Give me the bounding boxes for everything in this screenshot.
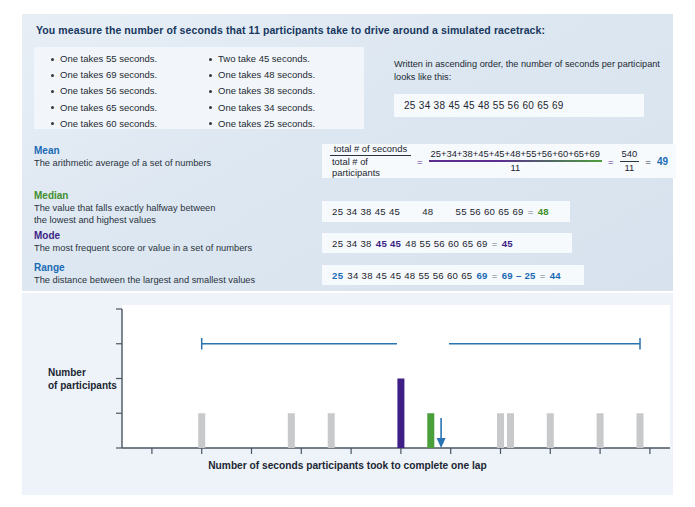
- list-item: Two take 45 seconds.: [206, 51, 315, 67]
- mean-frac-denominator: total # of participants: [330, 157, 411, 178]
- median-left-values: 25 34 38 45 45: [332, 206, 400, 217]
- definition-row-mode: Mode The most frequent score or value in…: [34, 229, 664, 254]
- range-high-value: 69: [476, 270, 487, 281]
- mode-values-post: 48 55 56 60 65 69: [405, 238, 487, 249]
- mean-sum-numerator: 25+34+38+45+45+48+55+56+60+65+69: [429, 149, 602, 160]
- median-right-values: 55 56 60 65 69: [456, 206, 524, 217]
- bar-60: [547, 413, 554, 448]
- bar-56: [507, 413, 514, 448]
- mean-arrow-icon: [437, 418, 446, 448]
- mean-count-denominator: 11: [508, 163, 522, 174]
- definition-row-median: Median The value that falls exactly half…: [34, 189, 664, 227]
- range-annotation: [202, 337, 640, 350]
- bar-45: [397, 379, 404, 449]
- explanation-panel: You measure the number of seconds that 1…: [22, 14, 673, 291]
- y-axis-ticks: [116, 309, 122, 448]
- equals-sign-3: =: [645, 156, 651, 167]
- list-item: One takes 34 seconds.: [206, 100, 315, 116]
- bar-65: [597, 413, 604, 448]
- range-low-value: 25: [332, 270, 343, 281]
- list-item: One takes 48 seconds.: [206, 67, 315, 83]
- definition-row-range: Range The distance between the largest a…: [34, 261, 664, 286]
- page-root: You measure the number of seconds that 1…: [0, 0, 695, 507]
- bullet-list-box: One takes 55 seconds. One takes 69 secon…: [34, 47, 364, 129]
- prompt-text: You measure the number of seconds that 1…: [36, 24, 656, 36]
- range-middle-values: 34 38 45 45 48 55 56 60 65: [347, 270, 472, 281]
- list-item: One takes 60 seconds.: [48, 116, 157, 132]
- definition-row-mean: Mean The arithmetic average of a set of …: [34, 144, 664, 169]
- mean-answer: 49: [657, 156, 668, 167]
- mean-fraction-definition: total # of seconds total # of participan…: [330, 144, 411, 179]
- bar-48: [427, 413, 434, 448]
- mean-fraction-reduced: 540 11: [620, 149, 640, 173]
- range-answer: 44: [550, 270, 561, 281]
- equals-sign-2: =: [540, 270, 546, 281]
- median-calculation-box: 25 34 38 45 45 48 55 56 60 65 69 = 48: [322, 201, 570, 222]
- mode-highlighted-values: 45 45: [376, 238, 402, 249]
- mode-answer: 45: [502, 238, 513, 249]
- median-center-value: 48: [422, 206, 433, 217]
- ascending-order-note: Written in ascending order, the number o…: [394, 58, 674, 83]
- mean-total-denominator: 11: [623, 163, 637, 174]
- mean-total-numerator: 540: [620, 149, 640, 160]
- mode-values-pre: 25 34 38: [332, 238, 372, 249]
- equals-sign: =: [528, 206, 534, 217]
- range-expression: 69 – 25: [502, 270, 536, 281]
- equals-sign-1: =: [417, 156, 423, 167]
- bar-38: [328, 413, 335, 448]
- mean-frac-numerator: total # of seconds: [332, 144, 410, 155]
- equals-sign: =: [492, 238, 498, 249]
- ascending-values: 25 34 38 45 45 48 55 56 60 65 69: [394, 94, 644, 117]
- bar-25: [198, 413, 205, 448]
- range-calculation-box: 25 34 38 45 45 48 55 56 60 65 69 = 69 – …: [322, 265, 584, 285]
- list-item: One takes 25 seconds.: [206, 116, 315, 132]
- list-item: One takes 55 seconds.: [48, 51, 157, 67]
- x-axis-ticks: [152, 448, 650, 454]
- bullet-column-right: Two take 45 seconds. One takes 48 second…: [206, 51, 315, 132]
- bar-34: [288, 413, 295, 448]
- list-item: One takes 65 seconds.: [48, 100, 157, 116]
- equals-sign-1: =: [492, 270, 498, 281]
- bar-55: [497, 413, 504, 448]
- mean-fraction-values: 25+34+38+45+45+48+55+56+60+65+69 11: [429, 149, 602, 173]
- bullet-column-left: One takes 55 seconds. One takes 69 secon…: [48, 51, 157, 132]
- median-answer: 48: [538, 206, 549, 217]
- chart-bars: [198, 379, 643, 449]
- list-item: One takes 38 seconds.: [206, 83, 315, 99]
- list-item: One takes 69 seconds.: [48, 67, 157, 83]
- equals-sign-2: =: [608, 156, 614, 167]
- bar-69: [637, 413, 644, 448]
- mode-calculation-box: 25 34 38 45 45 48 55 56 60 65 69 = 45: [322, 233, 572, 253]
- mean-calculation-box: total # of seconds total # of participan…: [322, 144, 676, 178]
- x-axis-title: Number of seconds participants took to c…: [22, 460, 673, 471]
- list-item: One takes 56 seconds.: [48, 83, 157, 99]
- chart-panel: Number of participants: [22, 293, 673, 495]
